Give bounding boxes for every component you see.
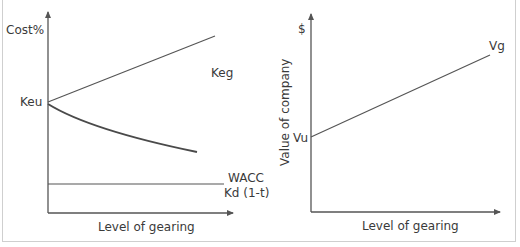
keg-line [48, 36, 215, 102]
left-y-axis-label: Cost% [6, 24, 44, 36]
right-y-axis-label: Value of company [279, 59, 291, 166]
wacc-curve [48, 104, 197, 152]
vu-label: Vu [293, 132, 308, 144]
wacc-label: WACC [228, 172, 264, 184]
right-chart-axes [311, 14, 500, 212]
vg-label: Vg [489, 40, 505, 52]
left-x-axis-label: Level of gearing [98, 221, 195, 233]
right-y-axis-unit: $ [298, 23, 306, 35]
charts-canvas [0, 0, 520, 247]
right-x-axis-label: Level of gearing [362, 220, 459, 232]
vg-line [311, 55, 490, 137]
keg-label: Keg [211, 67, 233, 79]
keu-label: Keu [20, 96, 42, 108]
kd-label: Kd (1-t) [224, 187, 269, 199]
left-chart-axes [48, 12, 233, 213]
